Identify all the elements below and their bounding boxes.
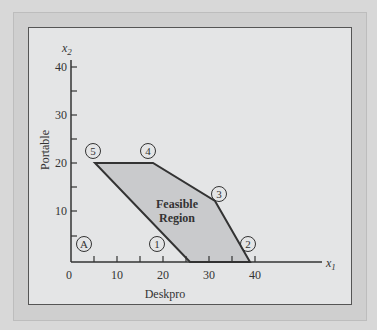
x-tick-40: 40	[249, 268, 261, 282]
x-tick-0: 0	[66, 268, 72, 282]
region-label-line2: Region	[159, 211, 195, 225]
svg-text:2: 2	[245, 238, 251, 250]
region-label-line1: Feasible	[156, 197, 199, 211]
x-axis-label: Deskpro	[145, 287, 186, 301]
y-tick-30: 30	[55, 108, 67, 122]
constraint-label-4: 4	[141, 144, 156, 159]
x-tick-30: 30	[203, 268, 215, 282]
svg-text:A: A	[80, 238, 88, 250]
feasible-region-chart: 40 30 20 10 0 10 20 30 40 Deskpro Portab…	[0, 0, 377, 330]
svg-text:4: 4	[145, 145, 151, 157]
constraint-label-5: 5	[86, 144, 101, 159]
y-tick-40: 40	[55, 60, 67, 74]
constraint-label-1: 1	[150, 237, 165, 252]
x-axis-symbol: x1	[325, 256, 336, 272]
y-axis-label: Portable	[38, 130, 52, 170]
x-tick-10: 10	[111, 268, 123, 282]
y-ticks	[71, 67, 77, 236]
svg-text:3: 3	[216, 188, 222, 200]
y-tick-20: 20	[55, 156, 67, 170]
constraint-label-2: 2	[241, 237, 256, 252]
y-tick-10: 10	[55, 204, 67, 218]
constraint-label-A: A	[77, 237, 92, 252]
constraint-label-3: 3	[212, 187, 227, 202]
svg-text:5: 5	[90, 145, 96, 157]
x-tick-20: 20	[157, 268, 169, 282]
svg-text:1: 1	[154, 238, 160, 250]
y-axis-symbol: x2	[61, 41, 72, 57]
